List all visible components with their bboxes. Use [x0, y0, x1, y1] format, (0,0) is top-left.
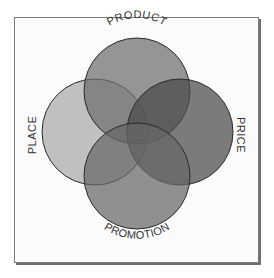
promotion-circle	[84, 123, 190, 229]
price-label: PRICE	[235, 117, 247, 153]
venn-diagram: PRODUCT PROMOTION PLACE PRICE	[0, 0, 274, 278]
place-label: PLACE	[26, 116, 38, 155]
product-label: PRODUCT	[105, 8, 170, 28]
